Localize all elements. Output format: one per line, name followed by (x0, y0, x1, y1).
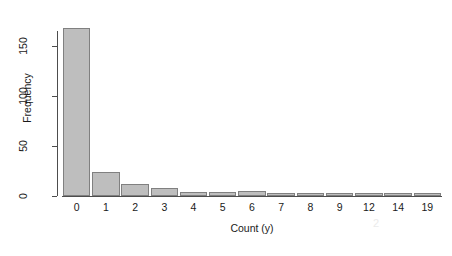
x-axis-tick-label: 5 (208, 200, 237, 214)
y-axis-tick (52, 46, 57, 47)
x-axis-tick-label: 14 (384, 200, 413, 214)
x-axis-tick-label: 1 (91, 200, 120, 214)
y-axis-tick (52, 146, 57, 147)
y-axis-tick-label: 0 (17, 173, 29, 219)
histogram-bar (121, 184, 148, 196)
histogram-bar (151, 188, 178, 196)
x-axis-tick-label: 19 (413, 200, 442, 214)
y-axis-tick-label: 150 (17, 23, 29, 69)
x-axis-tick-label: 6 (237, 200, 266, 214)
x-axis-tick-label: 7 (267, 200, 296, 214)
x-axis-tick-label: 2 (120, 200, 149, 214)
histogram-bar (92, 172, 119, 196)
x-axis-line (62, 196, 442, 197)
histogram-bar (63, 28, 90, 196)
x-axis-tick-label: 3 (150, 200, 179, 214)
x-axis-tick-label: 8 (296, 200, 325, 214)
histogram-chart: Frequency 050100150 0123456789121419 Cou… (0, 0, 452, 256)
y-axis-tick-label: 50 (17, 123, 29, 169)
x-axis-title: Count (y) (62, 222, 442, 234)
y-axis-tick (52, 196, 57, 197)
x-axis-tick-label: 0 (62, 200, 91, 214)
x-axis-tick-label: 12 (354, 200, 383, 214)
x-axis-tick-label: 4 (179, 200, 208, 214)
y-axis-tick (52, 96, 57, 97)
y-axis-tick-label: 100 (17, 73, 29, 119)
y-axis-line (57, 31, 58, 196)
x-axis-tick-label: 9 (325, 200, 354, 214)
scan-artifact: 2 (369, 216, 383, 230)
